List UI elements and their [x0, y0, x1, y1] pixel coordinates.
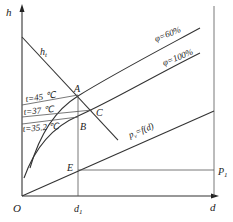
d1-tick-label: d1	[74, 203, 83, 216]
point-a-label: A	[73, 83, 81, 94]
isotherm-45-label: t=45 ℃	[25, 90, 57, 104]
psychrometric-diagram: h d O ht φ=60% φ=100% t=45 ℃ t=37 ℃ t=35…	[0, 0, 233, 222]
vapor-pressure-label: pv=f(d)	[126, 121, 155, 141]
isotherm-35-label: t=35.2 ℃	[22, 121, 60, 134]
d-axis	[22, 194, 219, 199]
point-e-label: E	[66, 162, 73, 173]
h-axis-label: h	[6, 6, 12, 18]
h-axis	[20, 4, 25, 196]
point-b-label: B	[80, 121, 86, 132]
isotherm-37-label: t=37 ℃	[23, 104, 55, 117]
point-c-label: C	[96, 107, 103, 118]
point-p1-label: P1	[217, 166, 228, 179]
phi-60-label: φ=60%	[153, 24, 182, 44]
phi-100-curve	[24, 53, 200, 178]
origin-label: O	[13, 202, 21, 214]
d-axis-label: d	[210, 201, 216, 213]
